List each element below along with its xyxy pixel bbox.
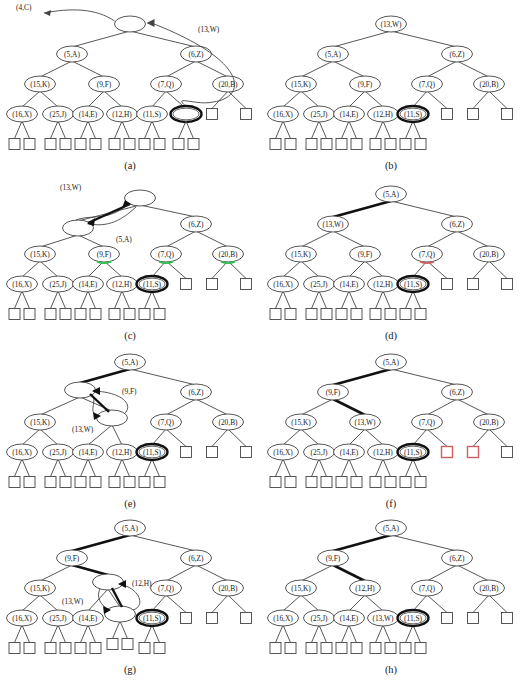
- nil-leaf-lrr-L: [370, 309, 381, 320]
- nil-leaf-rlr: [442, 109, 453, 120]
- node-root: (5,A): [376, 520, 407, 536]
- node-rr: (20,B): [474, 246, 505, 262]
- node-lrl: (14,E): [73, 276, 104, 292]
- nil-leaf-rll-R: [154, 643, 165, 654]
- node-rr: (20,B): [474, 580, 505, 596]
- label-12-H: (12,H): [132, 579, 152, 588]
- nil-leaf-lll-R: [285, 309, 296, 320]
- node-lll: (16,X): [7, 444, 38, 460]
- nil-leaf-lrl-L: [336, 139, 347, 150]
- node-label: (11,S): [143, 614, 162, 623]
- node-llr: (25,J): [43, 444, 74, 460]
- node-label: (11,S): [404, 110, 423, 119]
- node-label: (20,B): [479, 418, 499, 427]
- node-label: (12,H): [355, 584, 375, 593]
- node-rl: (7,Q): [151, 414, 182, 430]
- node-lrr: (13,W): [368, 610, 399, 626]
- node-ll: (15,K): [286, 76, 317, 92]
- nil-leaf-rrr: [502, 279, 513, 290]
- node-label: (6,Z): [450, 388, 466, 397]
- node-rll: (11,S): [398, 276, 429, 292]
- node-lrl: (14,E): [73, 610, 104, 626]
- node-ll: (15,K): [25, 580, 56, 596]
- node-label: (6,Z): [450, 50, 466, 59]
- node-lll: (16,X): [268, 276, 299, 292]
- nil-leaf-lrr-R: [124, 309, 135, 320]
- node-r: (6,Z): [181, 384, 212, 400]
- node-lrr: [105, 606, 136, 622]
- node-label: (25,J): [49, 110, 67, 119]
- nil-leaf-lll-L: [270, 309, 281, 320]
- node-lrr: (12,H): [107, 276, 138, 292]
- nil-leaf-rrr: [241, 613, 252, 624]
- node-label: (9,F): [326, 388, 341, 397]
- node-label: (25,J): [310, 614, 328, 623]
- nil-leaf-lrr-R: [124, 477, 135, 488]
- node-rll: (11,S): [137, 610, 168, 626]
- node-label: (11,S): [143, 110, 162, 119]
- nil-leaf-lll-R: [24, 309, 35, 320]
- node-label: (6,Z): [189, 220, 205, 229]
- node-lr: [93, 574, 124, 590]
- node-label: (5,A): [383, 358, 399, 367]
- node-lll: (16,X): [7, 610, 38, 626]
- node-label: (7,Q): [419, 418, 435, 427]
- node-label: (9,F): [326, 554, 341, 563]
- panel-caption-c: (c): [124, 330, 136, 342]
- node-ll: (15,K): [25, 246, 56, 262]
- node-ll: (15,K): [286, 580, 317, 596]
- node-label: (9,F): [358, 250, 373, 259]
- nil-leaf-rll-R: [415, 139, 426, 150]
- node-lrr: (12,H): [368, 106, 399, 122]
- panel-caption-a: (a): [124, 160, 136, 172]
- node-label: (13,W): [354, 418, 376, 427]
- node-lrl: (14,E): [334, 276, 365, 292]
- node-lr: [97, 410, 128, 426]
- node-lrr: (12,H): [107, 444, 138, 460]
- nil-leaf-lll-L: [9, 477, 20, 488]
- figure-background: [0, 0, 521, 684]
- nil-leaf-lrr-L: [370, 139, 381, 150]
- label-13-W: (13,W): [72, 425, 94, 434]
- node-l: (5,A): [318, 46, 349, 62]
- nil-leaf-lrl-R: [90, 139, 101, 150]
- node-label: (20,B): [479, 250, 499, 259]
- node-label: (12,H): [112, 280, 132, 289]
- node-label: (16,X): [12, 448, 32, 457]
- node-label: (5,A): [122, 358, 138, 367]
- nil-leaf-lll-L: [9, 139, 20, 150]
- node-label: (9,F): [97, 80, 112, 89]
- node-label: (20,B): [218, 418, 238, 427]
- node-label: (13,W): [322, 220, 344, 229]
- node-rr: (20,B): [474, 414, 505, 430]
- nil-leaf-lrl-R: [351, 643, 362, 654]
- nil-leaf-llr-L: [45, 477, 56, 488]
- nil-leaf-rrl: [207, 447, 218, 458]
- nil-leaf-lrr-L: [370, 477, 381, 488]
- node-label: (15,K): [291, 80, 311, 89]
- nil-leaf-llr-L: [45, 309, 56, 320]
- panel-caption-b: (b): [385, 160, 398, 172]
- node-label: (20,B): [479, 584, 499, 593]
- node-llr: (25,J): [43, 106, 74, 122]
- nil-leaf-lll-R: [285, 139, 296, 150]
- node-rr: (20,B): [213, 76, 244, 92]
- node-llr: (25,J): [43, 276, 74, 292]
- node-label: (16,X): [12, 614, 32, 623]
- nil-leaf-llr-L: [306, 309, 317, 320]
- nil-leaf-lrl-R: [351, 309, 362, 320]
- node-lll: (16,X): [268, 106, 299, 122]
- nil-leaf-llr-R: [60, 309, 71, 320]
- node-label: (9,F): [358, 80, 373, 89]
- node-label: (7,Q): [419, 250, 435, 259]
- nil-leaf-lll-L: [9, 309, 20, 320]
- node-label: (14,E): [79, 110, 98, 119]
- nil-leaf-rrl: [468, 109, 479, 120]
- node-lrr: (12,H): [368, 276, 399, 292]
- node-ll: (15,K): [286, 414, 317, 430]
- nil-leaf-llr-L: [45, 643, 56, 654]
- node-label: (16,X): [273, 448, 293, 457]
- node-label: (7,Q): [158, 250, 174, 259]
- node-label: (14,E): [340, 614, 359, 623]
- node-label: (6,Z): [450, 554, 466, 563]
